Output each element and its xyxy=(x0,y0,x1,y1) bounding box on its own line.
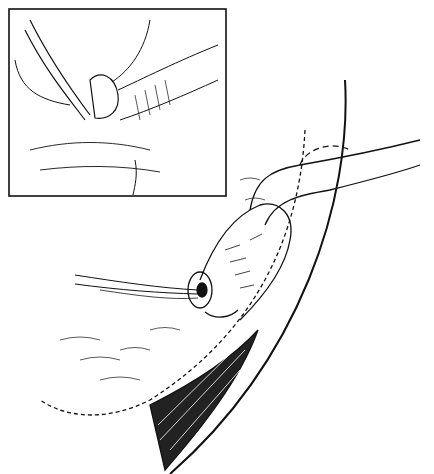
suture-thread xyxy=(75,275,198,290)
surgical-illustration xyxy=(0,0,434,474)
cut-tissue-section xyxy=(150,330,258,470)
inset-detail-view xyxy=(9,9,226,196)
vessel-body xyxy=(200,204,291,320)
